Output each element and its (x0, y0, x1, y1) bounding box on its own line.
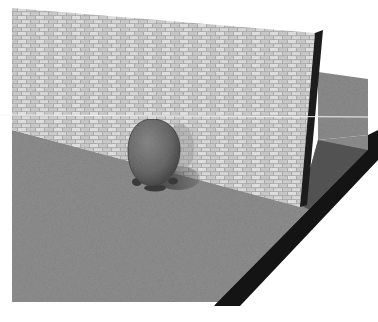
back-floor (318, 72, 368, 140)
render-scene (0, 0, 378, 322)
scene-canvas (0, 0, 378, 322)
